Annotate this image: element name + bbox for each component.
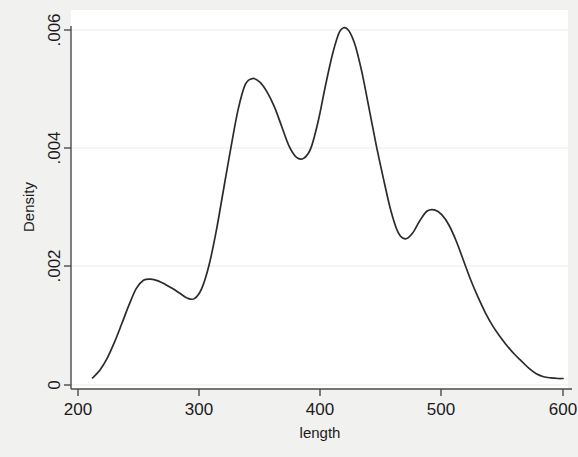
x-tick-label-200: 200	[64, 400, 92, 419]
x-tick-label-500: 500	[427, 400, 455, 419]
plot-area-background	[71, 10, 568, 389]
x-axis-title: length	[300, 424, 341, 441]
y-tick-label-002: .002	[45, 249, 64, 282]
x-tick-label-300: 300	[185, 400, 213, 419]
x-tick-label-600: 600	[549, 400, 577, 419]
density-plot-figure: .006 .004 .002 0 Density 200 300 400 500…	[0, 0, 578, 457]
y-axis-title: Density	[20, 181, 37, 232]
chart-canvas: .006 .004 .002 0 Density 200 300 400 500…	[0, 0, 578, 457]
y-tick-label-006: .006	[45, 13, 64, 46]
y-tick-label-0: 0	[45, 380, 64, 389]
x-tick-label-400: 400	[306, 400, 334, 419]
y-tick-label-004: .004	[45, 131, 64, 164]
